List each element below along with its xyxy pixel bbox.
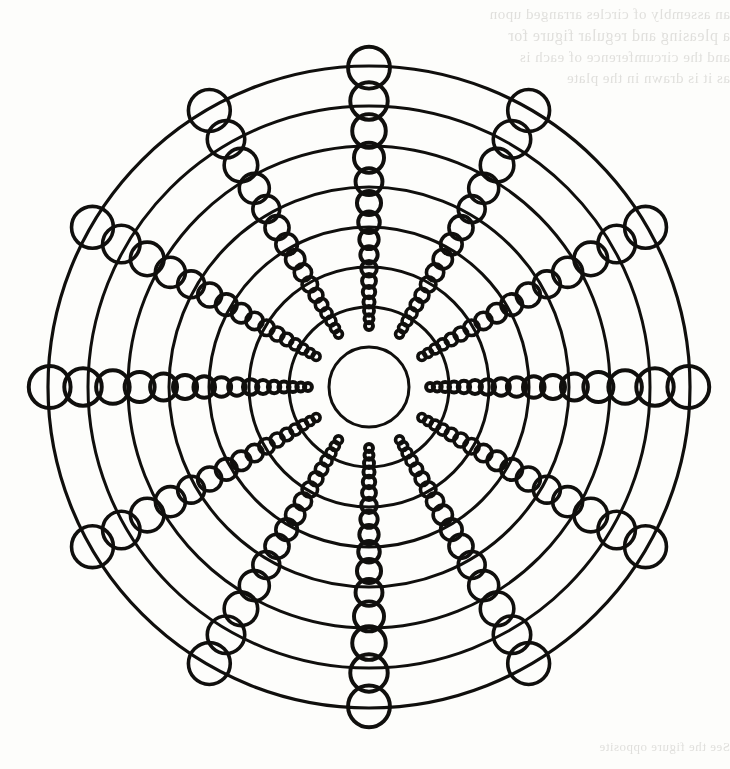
chain-circle	[625, 526, 667, 568]
chain-circle	[224, 592, 258, 626]
chain-circle	[72, 206, 114, 248]
chain-circle	[574, 498, 608, 532]
ring-circle	[329, 347, 409, 427]
ring-circle	[48, 66, 690, 708]
chain-circle	[188, 643, 230, 685]
chain-circle	[508, 643, 550, 685]
polar-circle-mandala	[0, 0, 730, 769]
chain-circle	[480, 148, 514, 182]
chain-circle	[188, 90, 230, 132]
ring-circle	[128, 146, 610, 628]
scanned-page: an assembly of circles arranged upon a p…	[0, 0, 730, 769]
chain-circle	[574, 242, 608, 276]
chain-circle	[625, 206, 667, 248]
radial-circle-chains-group	[29, 47, 709, 727]
chain-circle	[224, 148, 258, 182]
chain-circle	[130, 242, 164, 276]
ring-circle	[249, 267, 489, 507]
chain-circle	[130, 498, 164, 532]
concentric-rings-group	[48, 66, 690, 708]
chain-circle	[480, 592, 514, 626]
chain-circle	[508, 90, 550, 132]
chain-circle	[72, 526, 114, 568]
